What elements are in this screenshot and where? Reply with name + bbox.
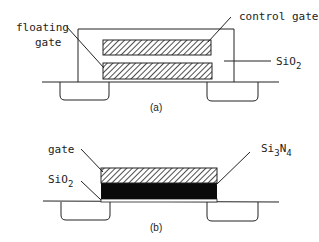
floating-gate-bar bbox=[103, 63, 212, 79]
drain-well-b bbox=[207, 202, 258, 221]
nitride-layer bbox=[101, 183, 217, 199]
diagram-b-mnos-cell: gate SiO2 Si3N4 (b) bbox=[43, 142, 292, 233]
label-control-gate: control gate bbox=[239, 10, 318, 23]
caption-a: (a) bbox=[150, 102, 162, 113]
leader-oxide-b bbox=[81, 181, 101, 200]
leader-floating-gate bbox=[67, 27, 104, 68]
label-oxide-a: SiO2 bbox=[276, 55, 301, 71]
label-floating-gate-2: gate bbox=[35, 36, 62, 49]
label-gate: gate bbox=[48, 143, 75, 156]
caption-b: (b) bbox=[150, 222, 162, 233]
thin-oxide-layer bbox=[101, 199, 217, 202]
gate-layer bbox=[101, 168, 217, 183]
source-well-b bbox=[61, 202, 110, 220]
source-well-a bbox=[60, 82, 109, 100]
label-floating-gate-1: floating bbox=[16, 21, 69, 34]
drain-well-a bbox=[207, 82, 258, 101]
memory-cell-diagrams: floating gate control gate SiO2 (a) gate… bbox=[0, 0, 319, 242]
label-nitride: Si3N4 bbox=[261, 142, 292, 158]
label-oxide-b: SiO2 bbox=[48, 173, 73, 189]
leader-gate bbox=[81, 149, 103, 172]
diagram-a-floating-gate-cell: floating gate control gate SiO2 (a) bbox=[16, 10, 318, 113]
leader-nitride bbox=[216, 152, 250, 185]
control-gate-bar bbox=[103, 40, 211, 55]
